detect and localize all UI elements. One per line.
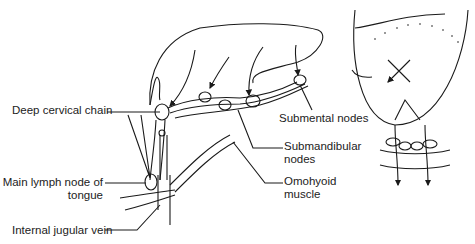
label-submandibular-line2: nodes	[284, 153, 315, 166]
tongue-lymphatic-drawing	[0, 0, 475, 244]
label-submental-nodes: Submental nodes	[279, 112, 369, 125]
label-internal-jugular-vein: Internal jugular vein	[12, 224, 112, 237]
label-deep-cervical-chain: Deep cervical chain	[12, 104, 112, 117]
label-omohyoid-line2: muscle	[284, 188, 320, 201]
label-main-lymph-node-line1: Main lymph node of	[0, 176, 103, 189]
label-main-lymph-node-line2: tongue	[0, 189, 103, 202]
label-submandibular-line1: Submandibular	[284, 140, 361, 153]
label-omohyoid-line1: Omohyoid	[284, 175, 336, 188]
